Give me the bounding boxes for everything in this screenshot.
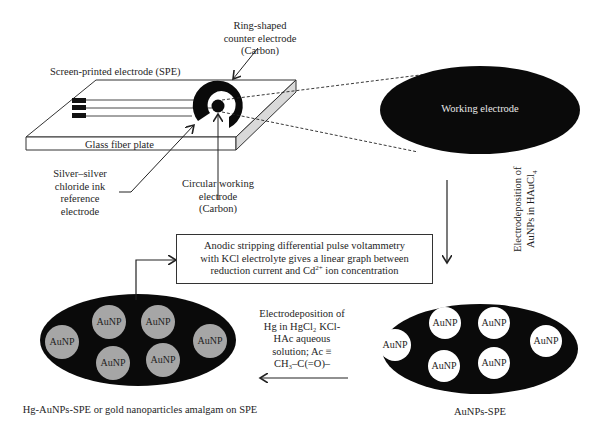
counter-electrode-label: Ring-shaped counter electrode (Carbon) — [210, 20, 310, 58]
aunp-label: AuNP — [530, 335, 562, 346]
reference-label-line: chloride ink — [40, 181, 120, 194]
step1-label-sub: 4 — [531, 170, 539, 174]
step1-label: Electrodeposition of AuNPs in HAuCl4 — [512, 167, 537, 252]
aunp-label: AuNP — [93, 316, 125, 327]
working-label-line: (Carbon) — [168, 203, 268, 216]
plate-label: Glass fiber plate — [85, 139, 154, 152]
reference-electrode-label: Silver–silver chloride ink reference ele… — [40, 168, 120, 218]
aunp-label: AuNP — [379, 339, 411, 350]
glass-fiber-plate — [26, 80, 296, 150]
result-line3-prefix: reduction current and Cd — [211, 265, 316, 276]
step2-line: CH₃–C(=O)– — [252, 358, 352, 371]
result-line3-suffix: ion concentration — [323, 265, 399, 276]
aunp-label: AuNP — [97, 357, 129, 368]
aunp-label: AuNP — [46, 336, 78, 347]
working-electrode-small-label: Circular working electrode (Carbon) — [168, 178, 268, 216]
step2-line: solution; Ac ≡ — [252, 346, 352, 359]
working-electrode-label: Working electrode — [420, 103, 540, 116]
contact-pads — [72, 98, 86, 118]
aunp-label: AuNP — [429, 317, 461, 328]
step2-line: Electrodeposition of — [252, 308, 352, 321]
result-line1: Anodic stripping differential pulse volt… — [177, 240, 432, 253]
step1-label-text: AuNPs in HAuCl — [525, 174, 536, 248]
step3-arrow — [136, 260, 176, 300]
step1-label-line1: Electrodeposition of — [512, 167, 525, 252]
aunp-label: AuNP — [478, 357, 510, 368]
working-label-line: electrode — [168, 191, 268, 204]
step2-line: HAc aqueous — [252, 333, 352, 346]
spe-label: Screen-printed electrode (SPE) — [50, 66, 181, 79]
counter-label-line: counter electrode — [210, 33, 310, 46]
step2-line: Hg in HgCl₂ KCl- — [252, 321, 352, 334]
reference-label-line: electrode — [40, 206, 120, 219]
aunps-spe-label: AuNPs-SPE — [430, 406, 530, 419]
hg-aunps-spe-label: Hg-AuNPs-SPE or gold nanoparticles amalg… — [0, 404, 280, 417]
step2-label: Electrodeposition of Hg in HgCl₂ KCl- HA… — [252, 308, 352, 371]
reference-label-line: Silver–silver — [40, 168, 120, 181]
aunp-label: AuNP — [142, 316, 174, 327]
result-box: Anodic stripping differential pulse volt… — [176, 234, 433, 284]
counter-label-line: (Carbon) — [210, 45, 310, 58]
counter-label-line: Ring-shaped — [210, 20, 310, 33]
aunp-label: AuNP — [194, 335, 226, 346]
step1-label-line2: AuNPs in HAuCl4 — [525, 167, 538, 252]
aunp-label: AuNP — [478, 317, 510, 328]
working-electrode-dot — [212, 100, 225, 113]
reference-label-line: reference — [40, 193, 120, 206]
aunp-label: AuNP — [147, 354, 179, 365]
working-label-line: Circular working — [168, 178, 268, 191]
aunp-label: AuNP — [428, 360, 460, 371]
result-line3: reduction current and Cd2+ ion concentra… — [177, 265, 432, 278]
result-line2: with KCl electrolyte gives a linear grap… — [177, 253, 432, 266]
result-line3-sup: 2+ — [315, 264, 322, 272]
